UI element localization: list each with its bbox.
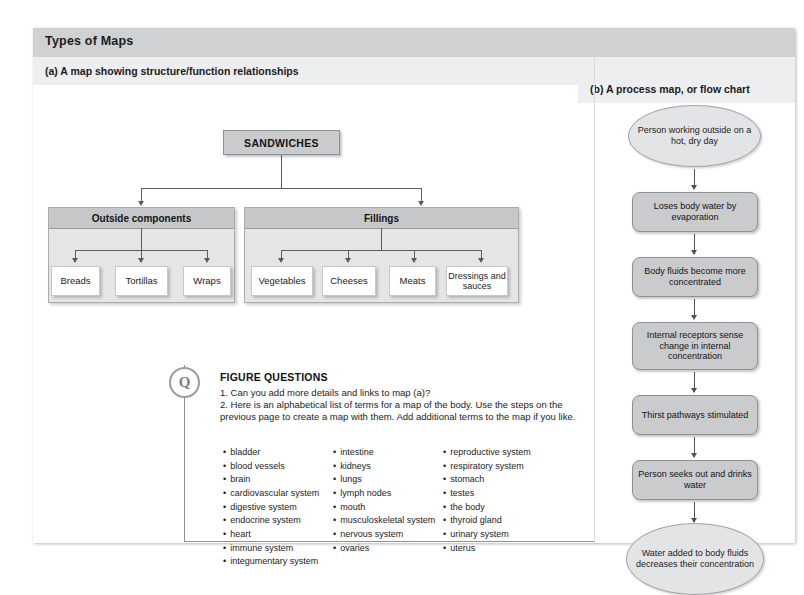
flow-arrow-4 [694,437,695,457]
list-item: kidneys [333,460,435,474]
arrowhead-g2-leaf-3 [411,258,417,263]
list-item: heart [223,528,319,542]
connector-root-bus [141,188,421,189]
arrowhead-group-1 [138,201,144,206]
connector-root-stem [281,155,282,188]
flow-node-4[interactable]: Thirst pathways stimulated [632,395,758,435]
arrowhead-g2-leaf-1 [278,258,284,263]
connector-g1-stem [141,228,142,250]
arrowhead-g1-leaf-3 [204,258,210,263]
list-item: thyroid gland [443,514,531,528]
list-item: the body [443,501,531,515]
flow-chart-panel: Person working outside on a hot, dry day… [594,85,795,543]
arrowhead-g2-leaf-2 [345,258,351,263]
list-item: intestine [333,446,435,460]
connector-g2-bus [281,250,481,251]
list-item: digestive system [223,501,319,515]
list-item: testes [443,487,531,501]
arrowhead-g1-leaf-1 [72,258,78,263]
term-list-column-2: intestinekidneyslungslymph nodesmouthmus… [333,446,435,555]
list-item: musculoskeletal system [333,514,435,528]
figure-container: Types of Maps (a) A map showing structur… [33,28,795,543]
flow-arrow-1 [694,234,695,254]
list-item: nervous system [333,528,435,542]
flow-node-1[interactable]: Loses body water by evaporation [632,192,758,232]
arrowhead-g1-leaf-2 [138,258,144,263]
list-item: blood vessels [223,460,319,474]
page-title: Types of Maps [45,34,134,48]
flow-arrow-3 [694,372,695,392]
leaf-box-wraps[interactable]: Wraps [183,266,231,296]
list-item: ovaries [333,542,435,556]
list-item: urinary system [443,528,531,542]
list-item: lungs [333,473,435,487]
arrowhead-group-2 [418,201,424,206]
leaf-box-vegetables[interactable]: Vegetables [251,266,313,296]
panel-a-caption: (a) A map showing structure/function rel… [45,65,299,77]
leaf-box-dressings-and-sauces[interactable]: Dressings and sauces [446,266,508,296]
figure-questions-title: FIGURE QUESTIONS [220,371,328,383]
list-item: cardiovascular system [223,487,319,501]
figure-question-1: 1. Can you add more details and links to… [220,387,585,399]
question-badge-icon: Q [169,367,200,398]
list-item: mouth [333,501,435,515]
leaf-box-cheeses[interactable]: Cheeses [322,266,376,296]
group-title-fillings: Fillings [245,208,518,229]
list-item: integumentary system [223,555,319,569]
concept-root-node[interactable]: SANDWICHES [223,130,340,155]
flow-node-5[interactable]: Person seeks out and drinks water [632,460,758,500]
leaf-box-tortillas[interactable]: Tortillas [115,266,168,296]
flow-node-3[interactable]: Internal receptors sense change in inter… [632,322,758,370]
list-item: respiratory system [443,460,531,474]
figure-question-2: 2. Here is an alphabetical list of terms… [220,399,585,423]
figure-title-bar [33,28,795,57]
list-item: brain [223,473,319,487]
term-list-column-1: bladderblood vesselsbraincardiovascular … [223,446,319,569]
list-item: uterus [443,542,531,556]
list-item: bladder [223,446,319,460]
flow-arrow-0 [694,169,695,189]
flow-node-0[interactable]: Person working outside on a hot, dry day [628,105,761,167]
flow-node-6[interactable]: Water added to body fluids decreases the… [626,523,764,595]
list-item: stomach [443,473,531,487]
figure-questions-box: Q FIGURE QUESTIONS 1. Can you add more d… [184,365,594,542]
flow-arrow-5 [694,502,695,522]
connector-g2-stem [381,228,382,250]
list-item: immune system [223,542,319,556]
list-item: reproductive system [443,446,531,460]
list-item: lymph nodes [333,487,435,501]
leaf-box-meats[interactable]: Meats [389,266,436,296]
flow-node-2[interactable]: Body fluids become more concentrated [632,257,758,297]
term-list-column-3: reproductive systemrespiratory systemsto… [443,446,531,555]
flow-arrow-2 [694,299,695,319]
arrowhead-g2-leaf-4 [478,258,484,263]
leaf-box-breads[interactable]: Breads [51,266,100,296]
list-item: endocrine system [223,514,319,528]
group-title-outside-components: Outside components [49,208,234,229]
